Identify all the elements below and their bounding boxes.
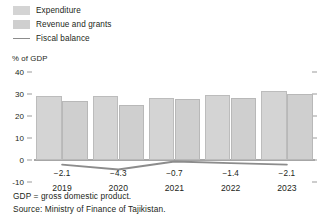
data-label-fiscal-balance-2023: −2.1 xyxy=(267,169,307,178)
chart-footnotes: GDP = gross domestic product. Source: Mi… xyxy=(13,190,166,215)
x-axis-label-2022: 2022 xyxy=(211,183,251,193)
legend-label-expenditure: Expenditure xyxy=(36,6,81,15)
legend-item-expenditure: Expenditure xyxy=(13,4,112,16)
data-label-fiscal-balance-2019: −2.1 xyxy=(42,169,82,178)
fiscal-balance-line xyxy=(0,66,328,186)
legend-label-fiscal-balance: Fiscal balance xyxy=(36,34,90,43)
legend-swatch-expenditure xyxy=(13,6,30,15)
legend-label-revenue-and-grants: Revenue and grants xyxy=(36,20,112,29)
data-label-fiscal-balance-2020: −4.3 xyxy=(98,169,138,178)
chart-plot-area: 403020100-10 xyxy=(0,66,328,166)
footnote-gdp-definition: GDP = gross domestic product. xyxy=(13,190,166,203)
data-label-fiscal-balance-2022: −1.4 xyxy=(211,169,251,178)
legend-line-fiscal-balance xyxy=(13,38,30,39)
chart-legend: Expenditure Revenue and grants Fiscal ba… xyxy=(13,4,112,46)
x-axis-label-2023: 2023 xyxy=(267,183,307,193)
legend-item-revenue-and-grants: Revenue and grants xyxy=(13,18,112,30)
footnote-source: Source: Ministry of Finance of Tajikista… xyxy=(13,203,166,216)
legend-item-fiscal-balance: Fiscal balance xyxy=(13,32,112,44)
data-label-fiscal-balance-2021: −0.7 xyxy=(155,169,195,178)
y-axis-title: % of GDP xyxy=(12,54,47,63)
legend-swatch-revenue-and-grants xyxy=(13,20,30,29)
